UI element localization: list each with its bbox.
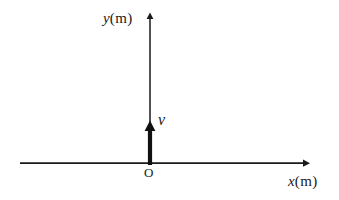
origin-label: O — [144, 166, 153, 179]
diagram-canvas — [0, 0, 339, 200]
velocity-vector-label: v — [158, 112, 165, 128]
physics-coordinate-diagram: y(m) x(m) O v — [0, 0, 339, 200]
x-axis-arrowhead-icon — [303, 160, 310, 167]
y-axis-label: y(m) — [103, 11, 133, 26]
velocity-vector-arrowhead-icon — [145, 121, 156, 132]
x-axis-label: x(m) — [288, 174, 318, 189]
x-axis-symbol: x — [288, 173, 295, 189]
x-axis-unit: (m) — [295, 173, 318, 189]
y-axis-symbol: y — [103, 10, 110, 26]
y-axis-unit: (m) — [110, 10, 133, 26]
y-axis-arrowhead-icon — [147, 13, 154, 20]
